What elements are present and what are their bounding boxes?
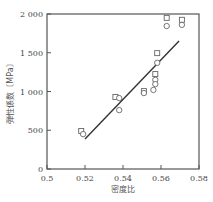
- circle-marker: [179, 22, 184, 27]
- regression-line: [85, 41, 179, 139]
- square-marker: [153, 72, 158, 77]
- x-tick-label: 0.5: [41, 174, 54, 183]
- square-marker: [164, 15, 169, 20]
- circle-marker: [155, 60, 160, 65]
- x-tick-label: 0.58: [190, 174, 208, 183]
- y-axis-ticks: 05001 0001 5002 000: [20, 10, 51, 174]
- square-marker: [155, 51, 160, 56]
- y-tick-label: 500: [28, 126, 43, 135]
- scatter-chart: 0.50.520.540.560.58 05001 0001 5002 000 …: [0, 0, 213, 202]
- circle-marker: [80, 131, 85, 136]
- y-tick-label: 0: [38, 165, 43, 174]
- y-axis-title: 弾性係数〔MPa〕: [5, 59, 15, 123]
- circle-marker: [153, 81, 158, 86]
- circle-marker: [164, 23, 169, 28]
- x-axis-title: 密度比: [111, 184, 135, 194]
- plot-frame: [47, 14, 199, 169]
- x-tick-label: 0.56: [152, 174, 170, 183]
- circle-marker: [117, 95, 122, 100]
- y-tick-label: 1 000: [20, 88, 43, 97]
- x-tick-label: 0.54: [114, 174, 132, 183]
- y-tick-label: 1 500: [20, 49, 43, 58]
- x-tick-label: 0.52: [76, 174, 94, 183]
- circle-marker: [117, 107, 122, 112]
- circle-marker: [151, 87, 156, 92]
- circle-marker: [141, 90, 146, 95]
- data-markers: [79, 15, 185, 136]
- square-marker: [179, 17, 184, 22]
- x-axis-ticks: 0.50.520.540.560.58: [41, 165, 208, 183]
- y-tick-label: 2 000: [20, 10, 43, 19]
